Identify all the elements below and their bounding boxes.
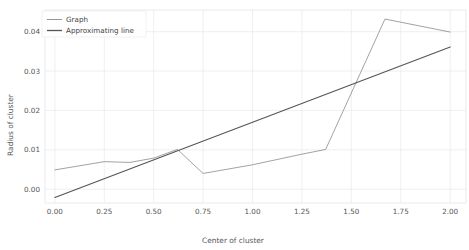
- x-tick-label: 2.00: [442, 207, 458, 216]
- x-tick-label: 0.75: [195, 207, 211, 216]
- x-tick-label: 0.50: [146, 207, 162, 216]
- x-tick-label: 1.75: [393, 207, 409, 216]
- x-tick-label: 1.25: [294, 207, 310, 216]
- chart-figure: 0.000.250.500.751.001.251.501.752.00 0.0…: [0, 0, 469, 250]
- y-tick-label: 0.00: [24, 185, 40, 194]
- x-tick-label: 1.00: [245, 207, 261, 216]
- x-tick-label: 0.25: [96, 207, 112, 216]
- x-tick-label: 0.00: [47, 207, 63, 216]
- y-tick-label: 0.03: [24, 67, 40, 76]
- x-axis-tick-labels: 0.000.250.500.751.001.251.501.752.00: [47, 207, 459, 216]
- y-axis-label: Radius of cluster: [6, 93, 15, 156]
- x-tick-label: 1.50: [343, 207, 359, 216]
- legend: Graph Approximating line: [42, 11, 146, 37]
- y-tick-label: 0.02: [24, 106, 40, 115]
- y-tick-label: 0.04: [24, 27, 40, 36]
- legend-label-graph: Graph: [66, 15, 88, 24]
- legend-label-approximating-line: Approximating line: [66, 26, 134, 35]
- line-chart: 0.000.250.500.751.001.251.501.752.00 0.0…: [0, 0, 469, 250]
- x-axis-label: Center of cluster: [202, 236, 265, 245]
- y-tick-label: 0.01: [24, 145, 40, 154]
